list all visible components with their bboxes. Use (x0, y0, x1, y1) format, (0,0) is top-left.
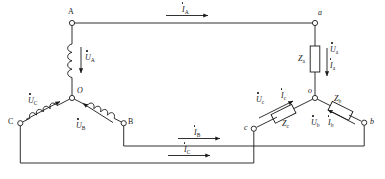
label-voltage-Uc: Uc (256, 96, 264, 104)
label-current-Ib: Ib (328, 119, 333, 127)
coil-phase-B (87, 103, 115, 118)
label-impedance-Za: Za (298, 55, 305, 63)
label-terminal-C: C (8, 118, 13, 126)
node-c (251, 126, 256, 131)
label-voltage-Ub: Ub (311, 119, 320, 127)
label-current-IA: IA (182, 6, 189, 14)
impedance-box-Zb (328, 101, 353, 120)
label-voltage-UA: UA (85, 54, 95, 62)
wire-o-to-Zb (317, 99, 332, 106)
label-impedance-Zc: Zc (282, 120, 289, 128)
label-neutral-O: O (77, 87, 83, 95)
label-current-Ia: Ia (330, 62, 335, 70)
label-current-IB: IB (194, 129, 200, 137)
label-terminal-b: b (370, 118, 374, 126)
impedance-box-Za (310, 46, 320, 72)
node-O (69, 95, 74, 100)
label-current-Ic: Ic (281, 92, 286, 100)
label-voltage-Ua: Ua (330, 46, 338, 54)
coil-phase-A (68, 44, 72, 78)
label-current-IC: IC (184, 146, 190, 154)
node-C (18, 121, 23, 126)
label-impedance-Zb: Zb (334, 95, 341, 103)
wire-Zb-to-b (349, 115, 362, 121)
node-a (312, 20, 317, 25)
label-terminal-A: A (68, 8, 74, 16)
node-B (121, 121, 126, 126)
label-voltage-UC: UC (28, 97, 37, 105)
node-o (312, 95, 317, 100)
label-terminal-a: a (318, 9, 322, 17)
circuit-diagram: A B C O a b c o UA UB UC IA IB IC Za Zb … (0, 0, 385, 179)
circuit-schematic-canvas (0, 0, 385, 179)
line-wire-C-to-c (20, 126, 254, 163)
wire-Zc-to-c (257, 117, 278, 127)
wire-coilB-to-B (114, 118, 121, 121)
label-terminal-B: B (128, 118, 133, 126)
node-b (362, 120, 367, 125)
node-A (69, 20, 74, 25)
label-voltage-UB: UB (76, 122, 85, 130)
label-terminal-c: c (244, 124, 248, 132)
label-neutral-o: o (308, 87, 312, 95)
